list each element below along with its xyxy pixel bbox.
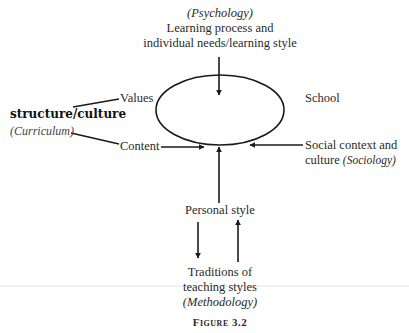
structure-culture-label: structure/culture (10, 107, 126, 121)
content-label: Content (120, 139, 160, 153)
traditions-label: Traditions of (150, 265, 290, 279)
sociology-text: (Sociology) (343, 154, 396, 166)
methodology-label: (Methodology) (150, 295, 290, 309)
figure-caption: Figure 3.2 (150, 315, 290, 329)
culture-text: culture (305, 153, 343, 167)
culture-sociology-label: culture (Sociology) (305, 153, 396, 167)
psychology-label: (Psychology) (150, 6, 290, 20)
line-values (73, 99, 119, 107)
school-ellipse (156, 75, 284, 145)
individual-needs-label: individual needs/learning style (130, 36, 310, 50)
teaching-styles-label: teaching styles (150, 280, 290, 294)
personal-style-label: Personal style (160, 203, 280, 217)
learning-process-label: Learning process and (130, 21, 310, 35)
school-label: School (305, 91, 340, 105)
values-label: Values (120, 91, 153, 105)
curriculum-label: (Curriculum) (10, 124, 74, 138)
social-context-label: Social context and (305, 138, 397, 152)
line-content (71, 133, 119, 144)
